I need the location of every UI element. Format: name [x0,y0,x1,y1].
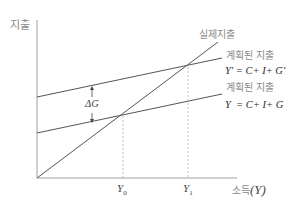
delta-g-label: ΔG [85,99,99,110]
actual-expenditure-label: 실제지출 [199,30,235,40]
tick-y1: Y1 [183,183,193,197]
actual-expenditure-line [37,42,218,178]
planned-new-label: 계획된 지출 [226,51,274,61]
planned-expenditure-new-line [37,58,222,97]
planned-old-label: 계획된 지출 [226,83,274,93]
tick-y0: Y0 [117,183,127,197]
planned-expenditure-old-line [37,94,222,133]
y-axis-label: 지출 [10,20,30,31]
planned-old-equation: Y = C+ I+ G [225,100,283,111]
x-axis-label: 소득(Y) [232,181,266,197]
planned-new-equation: Y' = C+ I+ G' [225,66,285,77]
